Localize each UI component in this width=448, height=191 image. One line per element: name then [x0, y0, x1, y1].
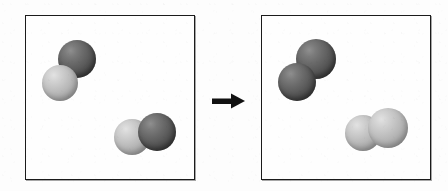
atom-light [368, 108, 408, 148]
atom-dark [138, 113, 176, 151]
atom-light [42, 65, 78, 101]
reaction-arrow-icon [212, 93, 245, 109]
reaction-diagram-figure: Molecular rearrangement: 2 AB → A₂ + B₂ [0, 0, 448, 191]
atom-dark [278, 63, 316, 101]
figure-title: Molecular rearrangement: 2 AB → A₂ + B₂ [0, 0, 1, 1]
